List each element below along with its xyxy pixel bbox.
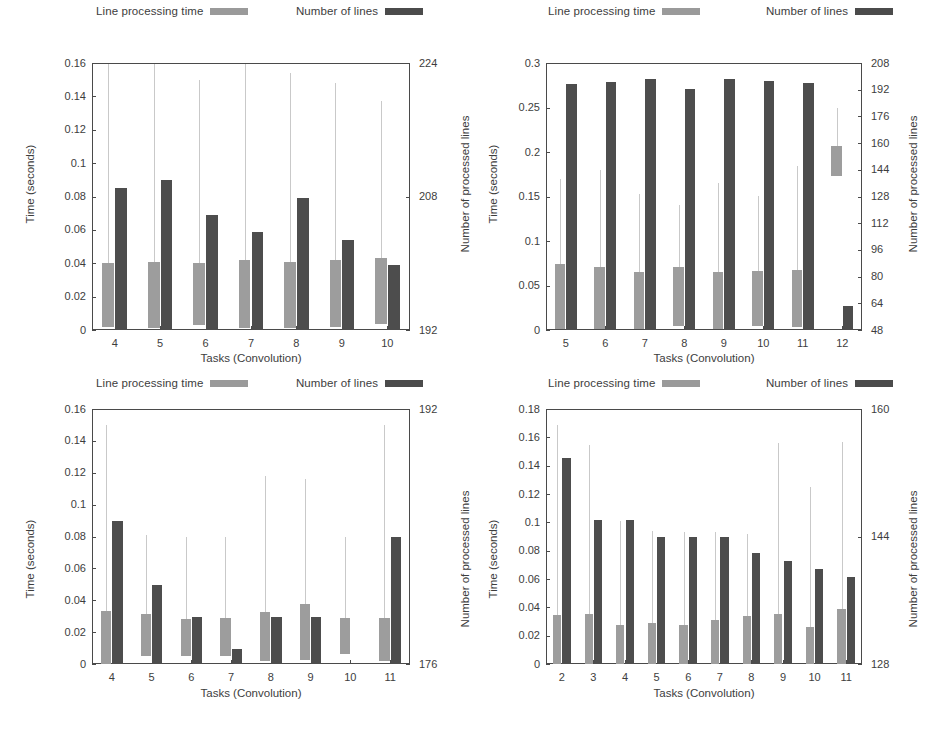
figure-grid: Line processing time Number of lines Tim… xyxy=(0,0,943,750)
bar-line-processing-time xyxy=(330,260,342,327)
bar-line-processing-time xyxy=(594,267,604,329)
y2-axis-tick-label: 176 xyxy=(419,659,459,670)
x-axis-tick-label: 4 xyxy=(92,672,132,683)
y-axis-tick-mark xyxy=(546,607,550,608)
bar-line-processing-time xyxy=(679,625,687,664)
x-axis-tick-label: 8 xyxy=(276,338,316,349)
error-bar-whisker xyxy=(108,64,109,263)
error-bar-whisker xyxy=(146,535,147,614)
y-axis-tick-label: 0.08 xyxy=(44,191,86,202)
x-axis-tick-label: 12 xyxy=(822,338,862,349)
bar-number-of-lines xyxy=(815,569,823,664)
y-axis-tick-label: 0.02 xyxy=(44,627,86,638)
x-axis-tick-label: 9 xyxy=(704,338,744,349)
bar-line-processing-time xyxy=(673,267,683,326)
y-axis-tick-mark xyxy=(92,63,96,64)
plot-area-bottom-right: Time (seconds) Number of processed lines… xyxy=(471,372,943,750)
chart-panel-top-right: Line processing time Number of lines Tim… xyxy=(471,0,943,372)
y-axis-tick-label: 0.1 xyxy=(498,517,540,528)
y-axis-tick-mark xyxy=(92,197,96,198)
error-bar-whisker xyxy=(715,532,716,620)
error-bar-whisker xyxy=(381,101,382,258)
bar-number-of-lines xyxy=(388,265,400,330)
x-axis-tick-label: 6 xyxy=(585,338,625,349)
bar-line-processing-time xyxy=(648,623,656,664)
error-bar-whisker xyxy=(335,83,336,260)
x-axis-tick-label: 10 xyxy=(743,338,783,349)
bar-line-processing-time xyxy=(181,619,191,656)
y2-axis-tick-mark xyxy=(858,223,862,224)
y2-axis-tick-mark xyxy=(858,330,862,331)
y2-axis-tick-label: 128 xyxy=(871,191,911,202)
x-axis-tick-label: 5 xyxy=(546,338,586,349)
bar-number-of-lines xyxy=(645,79,655,330)
bar-number-of-lines xyxy=(311,617,321,664)
y2-axis-tick-mark xyxy=(858,250,862,251)
y2-axis-tick-mark xyxy=(858,63,862,64)
bar-number-of-lines xyxy=(843,306,853,330)
y-axis-tick-label: 0.16 xyxy=(44,58,86,69)
y-axis-tick-mark xyxy=(546,466,550,467)
x-axis-tick-label: 10 xyxy=(330,672,370,683)
y-axis-tick-mark xyxy=(546,636,550,637)
y-axis-tick-mark xyxy=(546,551,550,552)
error-bar-whisker xyxy=(265,476,266,612)
y2-axis-tick-label: 80 xyxy=(871,271,911,282)
y-axis-tick-mark xyxy=(92,537,96,538)
error-bar-whisker xyxy=(345,537,346,617)
y2-axis-tick-mark xyxy=(858,537,862,538)
bar-number-of-lines xyxy=(297,198,309,330)
y-axis-tick-mark xyxy=(92,230,96,231)
y-axis-tick-mark xyxy=(92,96,96,97)
y2-axis-tick-label: 112 xyxy=(871,218,911,229)
error-bar-whisker xyxy=(778,443,779,614)
error-bar-whisker xyxy=(199,80,200,264)
bar-line-processing-time xyxy=(193,263,205,325)
bar-number-of-lines xyxy=(685,89,695,330)
error-bar-whisker xyxy=(639,194,640,271)
bar-line-processing-time xyxy=(220,618,230,657)
y2-axis-tick-label: 144 xyxy=(871,531,911,542)
bar-line-processing-time xyxy=(239,260,251,328)
plot-area-bottom-left: Time (seconds) Number of processed lines… xyxy=(0,372,471,750)
bar-line-processing-time xyxy=(148,262,160,328)
y2-axis-tick-mark xyxy=(858,303,862,304)
y2-axis-tick-mark xyxy=(858,664,862,665)
y2-axis-tick-label: 128 xyxy=(871,659,911,670)
bar-number-of-lines xyxy=(752,553,760,664)
bar-line-processing-time xyxy=(102,263,114,327)
error-bar-whisker xyxy=(718,183,719,272)
error-bar-whisker xyxy=(557,425,558,616)
error-bar-whisker xyxy=(560,179,561,264)
y-axis-tick-label: 0.25 xyxy=(498,102,540,113)
y2-axis-tick-label: 208 xyxy=(419,191,459,202)
y2-axis-tick-mark xyxy=(858,277,862,278)
y2-axis-tick-mark xyxy=(858,143,862,144)
bar-line-processing-time xyxy=(300,604,310,660)
error-bar-whisker xyxy=(154,64,155,262)
y2-axis-tick-label: 208 xyxy=(871,58,911,69)
bar-number-of-lines xyxy=(152,585,162,664)
bar-line-processing-time xyxy=(831,146,841,176)
x-axis-label: Tasks (Convolution) xyxy=(546,352,862,364)
y-axis-tick-mark xyxy=(92,441,96,442)
y-axis-tick-mark xyxy=(546,437,550,438)
bar-line-processing-time xyxy=(553,615,561,664)
error-bar-whisker xyxy=(747,534,748,616)
bar-number-of-lines xyxy=(626,520,634,664)
y2-axis-tick-label: 160 xyxy=(871,138,911,149)
x-axis-tick-label: 11 xyxy=(370,672,410,683)
y-axis-tick-label: 0.14 xyxy=(44,435,86,446)
bar-line-processing-time xyxy=(555,264,565,329)
bar-line-processing-time xyxy=(713,272,723,329)
chart-panel-bottom-right: Line processing time Number of lines Tim… xyxy=(471,372,943,750)
bar-line-processing-time xyxy=(752,271,762,326)
y-axis-tick-mark xyxy=(92,409,96,410)
y-axis-tick-mark xyxy=(92,473,96,474)
y2-axis-tick-mark xyxy=(858,170,862,171)
x-axis-tick-label: 5 xyxy=(140,338,180,349)
error-bar-whisker xyxy=(589,445,590,614)
y-axis-tick-label: 0.08 xyxy=(498,545,540,556)
bar-number-of-lines xyxy=(562,458,570,664)
y-axis-tick-label: 0.12 xyxy=(498,489,540,500)
